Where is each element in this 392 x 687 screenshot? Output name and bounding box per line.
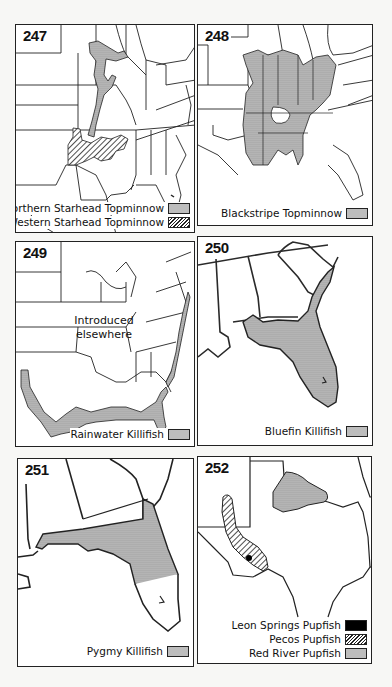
- legend-label: Bluefin Killifish: [265, 425, 342, 438]
- map-number: 251: [23, 461, 51, 478]
- range-leon-springs-pupfish: [246, 555, 252, 561]
- stipple-swatch-icon: [345, 648, 367, 659]
- range-pygmy: [36, 499, 178, 589]
- map-panel-248: 248 Blackstripe Topminnow: [197, 24, 373, 226]
- hatch-swatch-icon: [168, 217, 190, 228]
- map-number: 248: [203, 27, 231, 44]
- map-panel-252: 252 Leon Springs Pupfish Pecos Pupfish R…: [197, 456, 372, 664]
- range-rainwater-atlantic: [166, 292, 190, 387]
- range-northern-starhead: [88, 41, 128, 137]
- legend: Leon Springs Pupfish Pecos Pupfish Red R…: [232, 619, 367, 660]
- legend-item-northern-starhead-topminnow: Northern Starhead Topminnow: [15, 202, 190, 215]
- legend-label: Red River Pupfish: [249, 647, 341, 660]
- note-line: elsewhere: [64, 328, 144, 342]
- legend-label: Rainwater Killifish: [70, 428, 164, 441]
- map-number: 252: [203, 459, 231, 476]
- legend-item-bluefin-killifish: Bluefin Killifish: [265, 425, 368, 438]
- range-rainwater-gulf: [21, 370, 168, 437]
- legend: Blackstripe Topminnow: [221, 207, 368, 220]
- map-number: 247: [21, 27, 49, 44]
- legend-item-leon-springs-pupfish: Leon Springs Pupfish: [232, 619, 367, 632]
- range-bluefin: [243, 267, 338, 407]
- map-eastern-us: [16, 242, 195, 447]
- stipple-swatch-icon: [346, 208, 368, 219]
- legend-label: Pecos Pupfish: [269, 633, 341, 646]
- legend-label: Northern Starhead Topminnow: [15, 202, 164, 215]
- map-florida-gulf: [18, 459, 194, 667]
- legend: Northern Starhead Topminnow Western Star…: [15, 202, 190, 229]
- legend-label: Pygmy Killifish: [87, 645, 163, 658]
- legend-item-pecos-pupfish: Pecos Pupfish: [269, 633, 367, 646]
- map-panel-250: 250 Bluefin Killifish: [197, 236, 373, 446]
- legend-item-blackstripe-topminnow: Blackstripe Topminnow: [221, 207, 368, 220]
- legend: Pygmy Killifish: [87, 645, 189, 658]
- legend-label: Western Starhead Topminnow: [15, 216, 164, 229]
- legend-item-red-river-pupfish: Red River Pupfish: [249, 647, 367, 660]
- map-panel-251: 251 Pygmy Killifish: [17, 458, 194, 667]
- range-pecos-pupfish: [222, 495, 268, 571]
- map-panel-249: 249 Introduced elsewhere Rainwater Killi…: [15, 241, 195, 447]
- legend-item-western-starhead-topminnow: Western Starhead Topminnow: [15, 216, 190, 229]
- range-western-starhead: [68, 128, 128, 165]
- hatch-swatch-icon: [345, 634, 367, 645]
- map-panel-247: 247 Northern Starhead Topminnow Western …: [15, 24, 195, 233]
- stipple-swatch-icon: [168, 203, 190, 214]
- stipple-swatch-icon: [346, 426, 368, 437]
- legend-item-pygmy-killifish: Pygmy Killifish: [87, 645, 189, 658]
- legend-label: Blackstripe Topminnow: [221, 207, 342, 220]
- map-southeast-us: [198, 237, 373, 446]
- map-number: 250: [203, 239, 231, 256]
- range-red-river-pupfish: [273, 472, 328, 512]
- note-line: Introduced: [64, 314, 144, 328]
- range-blackstripe: [243, 50, 336, 165]
- introduced-note: Introduced elsewhere: [64, 314, 144, 342]
- legend: Rainwater Killifish: [70, 428, 190, 441]
- legend-item-rainwater-killifish: Rainwater Killifish: [70, 428, 190, 441]
- legend: Bluefin Killifish: [265, 425, 368, 438]
- legend-label: Leon Springs Pupfish: [232, 619, 341, 632]
- stipple-swatch-icon: [167, 646, 189, 657]
- stipple-swatch-icon: [168, 429, 190, 440]
- map-eastern-us: [198, 25, 373, 226]
- solid-swatch-icon: [345, 620, 367, 631]
- map-number: 249: [21, 244, 49, 261]
